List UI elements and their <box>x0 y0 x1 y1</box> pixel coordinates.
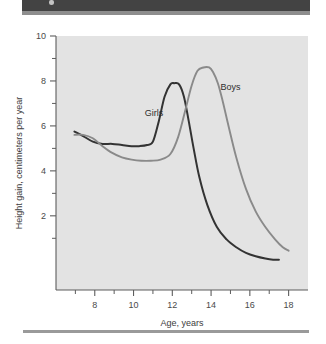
y-axis-tick-label: 8 <box>41 76 46 86</box>
x-axis-tick-label: 12 <box>167 300 177 310</box>
y-axis-tick-label: 2 <box>41 211 46 221</box>
x-axis-title: Age, years <box>160 318 204 328</box>
page-header-band-shadow <box>22 11 310 15</box>
figure-container: 24681081012141618Age, yearsHeight gain, … <box>0 0 326 344</box>
y-axis-tick-label: 10 <box>36 31 46 41</box>
series-label-boys: Boys <box>220 82 241 92</box>
x-axis-tick-label: 18 <box>284 300 294 310</box>
x-axis-tick-label: 16 <box>245 300 255 310</box>
chart-container: 24681081012141618Age, yearsHeight gain, … <box>0 22 326 318</box>
line-chart: 24681081012141618Age, yearsHeight gain, … <box>0 22 326 318</box>
x-axis-tick-label: 10 <box>129 300 139 310</box>
series-line-boys <box>74 67 288 251</box>
x-axis-tick-label: 8 <box>92 300 97 310</box>
series-label-girls: Girls <box>145 108 164 118</box>
y-axis-tick-label: 6 <box>41 121 46 131</box>
page-header-band <box>22 0 310 11</box>
y-axis-tick-label: 4 <box>41 166 46 176</box>
series-line-girls <box>74 83 279 260</box>
footer-divider-rule <box>23 330 309 333</box>
cropped-text-glyph <box>49 0 54 5</box>
y-axis-title: Height gain, centimeters per year <box>14 97 24 230</box>
x-axis-tick-label: 14 <box>206 300 216 310</box>
